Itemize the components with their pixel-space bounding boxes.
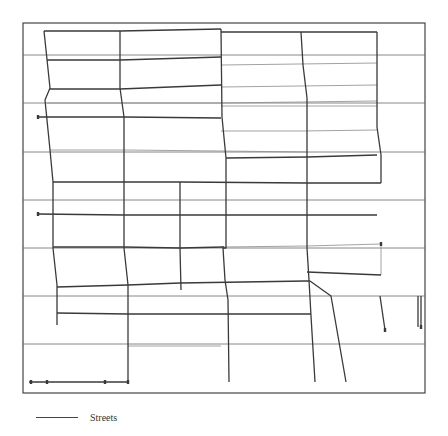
street [38, 214, 377, 215]
minor-street [221, 130, 377, 131]
street [44, 29, 221, 31]
street [307, 272, 381, 275]
grid-lines [23, 55, 425, 344]
street-endpoint-marker [420, 325, 422, 329]
street-map [0, 0, 448, 436]
street-endpoint-marker [46, 380, 48, 384]
street [301, 32, 315, 382]
street-endpoint-marker [104, 380, 106, 384]
street-endpoint-marker [380, 242, 382, 246]
street [120, 31, 128, 382]
streets-legend-swatch [36, 417, 78, 418]
street [38, 117, 221, 118]
minor-street [221, 85, 377, 87]
street [380, 296, 385, 330]
street [221, 29, 229, 382]
street [50, 85, 221, 89]
streets-legend-label: Streets [90, 412, 117, 423]
street-endpoint-marker [30, 380, 32, 384]
street-endpoint-marker [37, 115, 39, 119]
minor-streets [47, 63, 381, 346]
street [226, 155, 377, 158]
street [57, 281, 310, 287]
streets-layer [29, 29, 421, 382]
minor-street [221, 244, 381, 247]
street [53, 182, 381, 183]
street [57, 313, 311, 314]
minor-street [221, 63, 377, 65]
street-endpoint-marker [384, 328, 386, 332]
street-endpoint-marker [37, 212, 39, 216]
street [44, 31, 57, 325]
map-frame [23, 23, 425, 393]
street [47, 57, 221, 60]
street [180, 182, 181, 290]
legend: Streets [36, 412, 117, 423]
street-endpoint-marker [127, 380, 129, 384]
